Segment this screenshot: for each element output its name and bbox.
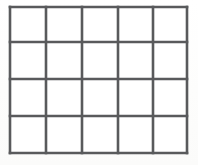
grid-cell: [82, 79, 118, 116]
grid-cell: [82, 116, 118, 153]
grid-cell: [82, 42, 118, 79]
grid-cell: [118, 116, 153, 153]
grid-cell: [153, 79, 187, 116]
grid-cell: [10, 42, 46, 79]
grid-cell: [153, 116, 187, 153]
grid-cell: [10, 79, 46, 116]
grid-cell: [118, 79, 153, 116]
grid-cell: [46, 116, 82, 153]
grid-cell: [46, 79, 82, 116]
grid-cell: [10, 116, 46, 153]
grid-cell: [153, 42, 187, 79]
grid-cell: [46, 7, 82, 42]
grid-cell: [118, 42, 153, 79]
grid-svg: [0, 0, 198, 165]
grid-cell: [82, 7, 118, 42]
grid-cell: [46, 42, 82, 79]
grid-cell: [153, 7, 187, 42]
grid-figure: [0, 0, 198, 165]
grid-cell: [10, 7, 46, 42]
figure-canvas: [0, 0, 198, 165]
grid-cell: [118, 7, 153, 42]
